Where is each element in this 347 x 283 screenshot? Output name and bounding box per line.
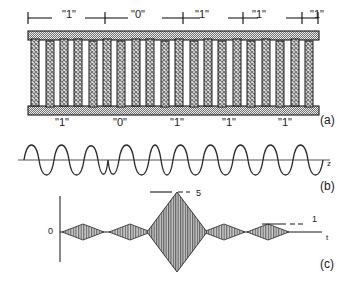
panel-tag-a: (a): [320, 114, 335, 126]
panel-tag-b: (b): [320, 180, 335, 192]
rf-waveform-trace: [24, 145, 323, 175]
panel-tag-c: (c): [320, 258, 334, 270]
top-bit-label-2: "1": [195, 9, 209, 20]
saw-transducer-figure: z t 5: [0, 0, 347, 283]
t-axis-label: t: [326, 233, 329, 242]
top-bit-label-3: "1": [252, 9, 266, 20]
bottom-bit-label-3: "1": [222, 117, 236, 128]
peak-value-label: 5: [196, 188, 201, 198]
bottom-bit-label-0: "1": [55, 117, 69, 128]
z-axis-label: z: [327, 159, 331, 168]
bottom-bit-label-1: "0": [113, 117, 127, 128]
top-bit-label-1: "0": [131, 9, 145, 20]
origin-label: 0: [48, 227, 53, 236]
correlation-main-peak: [147, 192, 207, 272]
figure-canvas: z t 5: [0, 0, 347, 283]
sidelobe-marker-1: 1: [262, 214, 317, 224]
top-bit-label-4: "1": [310, 9, 324, 20]
bottom-bit-label-2: "1": [170, 117, 184, 128]
sidelobe-value-label: 1: [312, 214, 317, 224]
interdigital-transducer: [28, 31, 319, 115]
rf-waveform-plot: z: [18, 145, 331, 175]
top-bit-label-0: "1": [62, 9, 76, 20]
bottom-bit-label-4: "1": [278, 117, 292, 128]
correlation-plot: t 5 1: [60, 188, 329, 272]
